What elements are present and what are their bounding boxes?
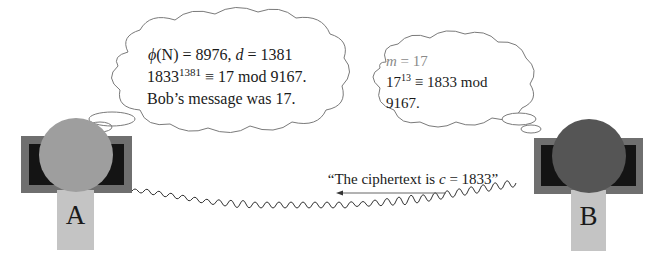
- alice-label: A: [66, 200, 86, 230]
- bob-figure: B: [534, 119, 643, 251]
- alice-thought-line-3: Bob’s message was 17.: [147, 90, 295, 108]
- alice-thought-line-1: ϕ(N) = 8976, d = 1381: [148, 46, 293, 64]
- alice-figure: A: [21, 118, 132, 250]
- alice-head: [39, 118, 113, 192]
- bob-thought-line-1: m = 17: [386, 53, 428, 69]
- rsa-diagram: ϕ(N) = 8976, d = 1381 18331381 ≡ 17 mod …: [0, 0, 663, 265]
- channel-message: “The ciphertext is c = 1833”: [328, 171, 499, 187]
- bob-head: [552, 119, 626, 193]
- alice-thought-line-2: 18331381 ≡ 17 mod 9167.: [147, 66, 306, 85]
- arrow-left-icon: [336, 191, 446, 196]
- bob-thought-line-3: 9167.: [386, 95, 420, 111]
- bob-label: B: [579, 201, 597, 231]
- bob-thought-bubble-large: [502, 113, 536, 125]
- bob-thought-bubble-small: [521, 125, 541, 133]
